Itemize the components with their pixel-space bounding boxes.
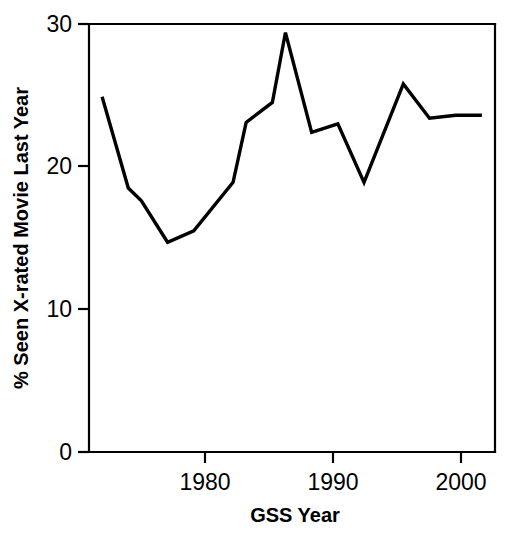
- y-axis-title: % Seen X-rated Movie Last Year: [10, 87, 32, 389]
- y-tick-label-20: 20: [46, 153, 72, 179]
- x-tick-label-1990: 1990: [307, 469, 358, 495]
- y-axis-tick-labels: 30 20 10 0: [46, 11, 72, 465]
- y-axis-ticks: [78, 24, 89, 452]
- data-series-line: [102, 33, 482, 243]
- x-axis-ticks: [205, 452, 461, 463]
- chart-figure: 30 20 10 0 1980 1990 2000 GSS Year % See…: [0, 0, 520, 539]
- x-tick-label-1980: 1980: [179, 469, 230, 495]
- x-tick-label-2000: 2000: [435, 469, 486, 495]
- y-tick-label-10: 10: [46, 296, 72, 322]
- x-axis-tick-labels: 1980 1990 2000: [179, 469, 486, 495]
- line-chart: 30 20 10 0 1980 1990 2000 GSS Year % See…: [0, 0, 520, 539]
- axis-frame: [89, 24, 495, 452]
- x-axis-title: GSS Year: [250, 504, 340, 526]
- y-tick-label-30: 30: [46, 11, 72, 37]
- y-tick-label-0: 0: [59, 439, 72, 465]
